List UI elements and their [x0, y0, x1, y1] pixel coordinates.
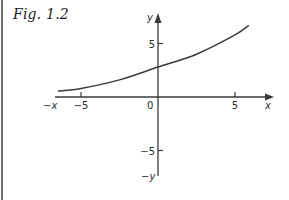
figure-frame: Fig. 1.2 −555−5 x −x y −y 0 [0, 0, 289, 200]
chart: −555−5 x −x y −y 0 [0, 0, 289, 200]
x-tick-label: −5 [74, 100, 89, 111]
y-tick-label: 5 [149, 39, 155, 50]
x-tick-label: 5 [232, 100, 238, 111]
y-tick-label: −5 [140, 146, 155, 157]
series-line-curve [58, 25, 249, 91]
series-group [58, 25, 249, 91]
origin-label: 0 [147, 100, 153, 111]
y-axis-arrow-icon [155, 13, 162, 23]
axes [55, 13, 274, 176]
y-axis-negative-label: −y [141, 171, 156, 182]
x-axis-negative-label: −x [43, 100, 57, 111]
y-axis-label: y [146, 12, 154, 23]
x-axis-label: x [264, 100, 271, 111]
